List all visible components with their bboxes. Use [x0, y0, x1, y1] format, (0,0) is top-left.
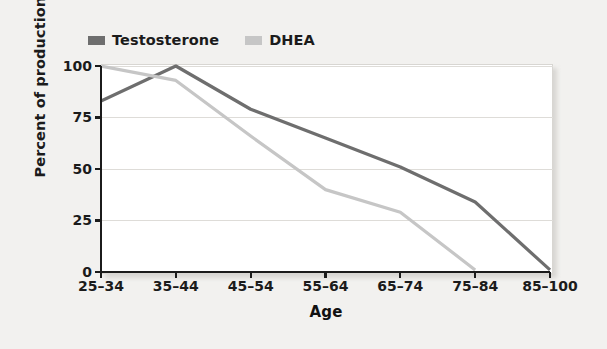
y-tick-label-100: 100 — [58, 59, 92, 73]
y-tick-label-75: 75 — [58, 110, 92, 124]
legend-item-testosterone: Testosterone — [88, 33, 219, 48]
chart-legend: Testosterone DHEA — [88, 30, 315, 50]
y-axis-title: Percent of production in men — [32, 0, 52, 178]
legend-item-dhea: DHEA — [245, 33, 315, 48]
x-axis-title: Age — [101, 303, 551, 321]
y-tick-label-0: 0 — [58, 265, 92, 279]
axis-lines — [90, 55, 570, 295]
legend-swatch-dhea — [245, 36, 262, 45]
y-tick-label-25: 25 — [58, 213, 92, 227]
legend-label-dhea: DHEA — [269, 33, 315, 48]
x-tick-label-6: 85–100 — [505, 279, 595, 293]
x-axis-tick-labels: 25–3435–4445–5455–6465–7475–8485–100 — [0, 279, 607, 299]
chart-figure: Testosterone DHEA Percent of production … — [0, 0, 607, 349]
legend-label-testosterone: Testosterone — [112, 33, 219, 48]
y-tick-label-50: 50 — [58, 162, 92, 176]
